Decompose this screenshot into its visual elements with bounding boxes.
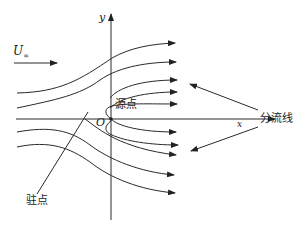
stagnation-point-label: 驻点	[26, 195, 48, 206]
source-point-marker	[109, 117, 113, 121]
dividing-pointer-lower	[191, 127, 258, 151]
dividing-streamline-lower	[111, 119, 176, 132]
origin-label: O	[96, 117, 105, 128]
freestream-label: U∞	[13, 45, 29, 60]
streamline-upper-3	[110, 80, 177, 98]
streamline-lower-4	[17, 129, 174, 175]
dividing-streamline-label: 分流线	[260, 113, 293, 124]
y-axis-label: y	[99, 12, 105, 23]
stagnation-leader	[37, 112, 88, 194]
dividing-pointer-upper	[190, 84, 258, 110]
freestream-subscript: ∞	[23, 52, 29, 60]
source-point-label: 源点	[115, 99, 137, 110]
streamline-upper-2	[17, 62, 176, 108]
freestream-symbol: U	[13, 44, 23, 58]
streamline-lower-5	[17, 144, 175, 193]
streamline-upper-1	[17, 43, 175, 93]
x-axis-label: x	[237, 120, 242, 129]
streamline-lower-2	[106, 121, 178, 145]
